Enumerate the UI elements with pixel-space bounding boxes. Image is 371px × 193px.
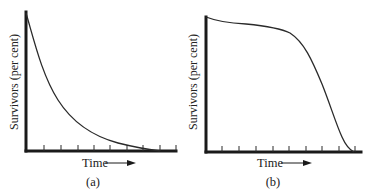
panel-b-label: (b)	[266, 175, 281, 189]
panel-a-survivorship-curve	[26, 13, 160, 151]
panel-b: Survivors (per cent) Time (b)	[186, 17, 361, 189]
panel-b-y-axis-label: Survivors (per cent)	[186, 34, 200, 130]
panel-a: Survivors (per cent) Time (a)	[7, 12, 176, 189]
panel-b-x-axis-label: Time	[257, 156, 283, 170]
panel-a-y-axis-label: Survivors (per cent)	[7, 34, 21, 130]
panel-b-survivorship-curve	[206, 17, 354, 152]
panel-a-x-axis-label: Time	[82, 156, 108, 170]
panel-a-label: (a)	[86, 175, 100, 189]
panel-a-time-arrow-icon	[105, 160, 136, 166]
survivorship-figure: Survivors (per cent) Time (a) Survivors …	[0, 0, 371, 193]
panel-b-time-arrow-icon	[281, 160, 312, 166]
